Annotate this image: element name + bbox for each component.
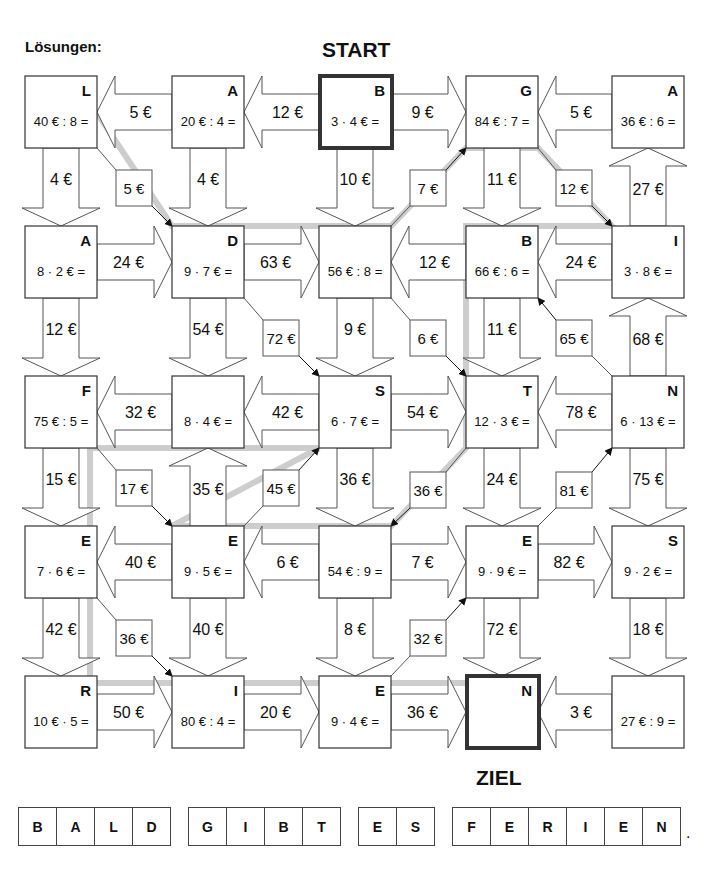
task-box-r4c3[interactable]: N bbox=[467, 676, 539, 748]
diagonal-cost-label: 5 € bbox=[124, 180, 146, 197]
diagonal-arrow-icon: 32 € bbox=[391, 598, 466, 676]
task-box-r0c1[interactable]: A20 € : 4 = bbox=[172, 76, 244, 148]
arrow-cost-label: 82 € bbox=[553, 554, 584, 571]
task-box-r3c0[interactable]: E7 · 6 € = bbox=[25, 526, 97, 598]
answer-letter-cell[interactable]: I bbox=[566, 807, 605, 846]
arrow-cost-label: 54 € bbox=[407, 404, 438, 421]
task-box-r3c2[interactable]: 54 € : 9 = bbox=[319, 526, 391, 598]
task-box-r3c3[interactable]: E9 · 9 € = bbox=[466, 526, 538, 598]
diagonal-cost-label: 17 € bbox=[119, 480, 149, 497]
solutions-heading: Lösungen: bbox=[25, 38, 102, 55]
arrow-cost-label: 7 € bbox=[411, 554, 433, 571]
answer-letter-cell[interactable]: L bbox=[94, 807, 133, 846]
box-letter: G bbox=[520, 82, 532, 99]
task-box-r3c1[interactable]: E9 · 5 € = bbox=[172, 526, 244, 598]
task-box-r4c2[interactable]: E9 · 4 € = bbox=[319, 676, 391, 748]
arrow-cost-label: 11 € bbox=[487, 321, 517, 338]
diagonal-line bbox=[446, 448, 466, 472]
box-task: 8 · 4 € = bbox=[184, 414, 232, 429]
arrow-cost-label: 6 € bbox=[276, 554, 298, 571]
task-box-r0c0[interactable]: L40 € : 8 = bbox=[25, 76, 97, 148]
task-box-r0c2[interactable]: B3 · 4 € = bbox=[320, 76, 392, 148]
box-letter: B bbox=[374, 82, 385, 99]
arrow-down-icon: 11 € bbox=[463, 148, 541, 226]
arrow-down-icon: 18 € bbox=[609, 598, 687, 676]
arrow-left-icon: 42 € bbox=[244, 376, 319, 448]
box-task: 7 · 6 € = bbox=[37, 564, 85, 579]
answer-letter-cell[interactable]: T bbox=[302, 807, 341, 846]
diagonal-line bbox=[97, 148, 116, 170]
task-box-r1c1[interactable]: D9 · 7 € = bbox=[172, 226, 244, 298]
arrow-cost-label: 32 € bbox=[125, 404, 156, 421]
answer-letter-cell[interactable]: E bbox=[490, 807, 529, 846]
arrow-down-icon: 11 € bbox=[463, 298, 541, 376]
answer-word: GIBT bbox=[188, 807, 341, 846]
arrow-cost-label: 9 € bbox=[344, 321, 366, 338]
task-box-r3c4[interactable]: S9 · 2 € = bbox=[612, 526, 684, 598]
arrow-cost-label: 24 € bbox=[113, 254, 144, 271]
diagonal-line bbox=[592, 356, 612, 376]
box-task: 9 · 2 € = bbox=[624, 564, 672, 579]
answer-letter-cell[interactable]: N bbox=[642, 807, 681, 846]
task-box-r2c4[interactable]: N6 · 13 € = bbox=[612, 376, 684, 448]
task-box-r1c4[interactable]: I3 · 8 € = bbox=[612, 226, 684, 298]
task-box-r2c3[interactable]: T12 · 3 € = bbox=[466, 376, 538, 448]
diagonal-cost-label: 12 € bbox=[559, 180, 589, 197]
arrow-cost-label: 42 € bbox=[272, 404, 303, 421]
arrow-cost-label: 63 € bbox=[260, 254, 291, 271]
task-box-r1c3[interactable]: B66 € : 6 = bbox=[466, 226, 538, 298]
arrow-down-icon: 10 € bbox=[316, 148, 394, 226]
diagonal-arrowhead bbox=[446, 598, 466, 620]
answer-letter-cell[interactable]: B bbox=[18, 807, 57, 846]
box-letter: I bbox=[234, 682, 238, 699]
arrow-down-icon: 24 € bbox=[463, 448, 541, 526]
arrow-right-icon: 63 € bbox=[244, 226, 319, 298]
answer-letter-cell[interactable]: A bbox=[56, 807, 95, 846]
task-box-r0c4[interactable]: A36 € : 6 = bbox=[612, 76, 684, 148]
box-letter: S bbox=[375, 382, 385, 399]
task-box-frame bbox=[612, 676, 684, 748]
answer-letter-cell[interactable]: D bbox=[132, 807, 171, 846]
answer-word: ES bbox=[358, 807, 435, 846]
answer-letter-cell[interactable]: E bbox=[604, 807, 643, 846]
arrow-up-icon: 35 € bbox=[169, 448, 247, 526]
answer-letter-cell[interactable]: G bbox=[188, 807, 227, 846]
answer-letter-cell[interactable]: B bbox=[264, 807, 303, 846]
arrow-right-icon: 82 € bbox=[538, 526, 612, 598]
arrow-cost-label: 36 € bbox=[339, 471, 370, 488]
box-task: 9 · 5 € = bbox=[184, 564, 232, 579]
task-box-frame bbox=[319, 226, 391, 298]
diagonal-arrow-icon: 17 € bbox=[97, 448, 172, 526]
arrow-left-icon: 5 € bbox=[97, 76, 172, 148]
goal-label: ZIEL bbox=[476, 766, 522, 790]
diagonal-arrow-icon: 5 € bbox=[97, 148, 172, 226]
task-box-r4c1[interactable]: I80 € : 4 = bbox=[172, 676, 244, 748]
task-box-r4c4[interactable]: 27 € : 9 = bbox=[612, 676, 684, 748]
box-letter: E bbox=[228, 532, 238, 549]
arrow-cost-label: 5 € bbox=[129, 104, 151, 121]
task-box-r2c1[interactable]: 8 · 4 € = bbox=[172, 376, 244, 448]
arrow-left-icon: 78 € bbox=[538, 376, 612, 448]
box-task: 6 · 7 € = bbox=[331, 414, 379, 429]
arrow-cost-label: 24 € bbox=[565, 254, 596, 271]
answer-letter-cell[interactable]: R bbox=[528, 807, 567, 846]
task-box-r1c0[interactable]: A8 · 2 € = bbox=[25, 226, 97, 298]
task-box-r2c0[interactable]: F75 € : 5 = bbox=[25, 376, 97, 448]
box-task: 8 · 2 € = bbox=[37, 264, 85, 279]
task-box-r1c2[interactable]: 56 € : 8 = bbox=[319, 226, 391, 298]
box-task: 9 · 9 € = bbox=[478, 564, 526, 579]
answer-letter-cell[interactable]: I bbox=[226, 807, 265, 846]
box-task: 3 · 4 € = bbox=[331, 114, 379, 129]
box-task: 56 € : 8 = bbox=[328, 264, 383, 279]
task-box-r0c3[interactable]: G84 € : 7 = bbox=[466, 76, 538, 148]
arrow-left-icon: 40 € bbox=[97, 526, 172, 598]
task-box-r4c0[interactable]: R10 € · 5 = bbox=[25, 676, 97, 748]
answer-letter-cell[interactable]: S bbox=[396, 807, 435, 846]
task-box-r2c2[interactable]: S6 · 7 € = bbox=[319, 376, 391, 448]
arrow-cost-label: 78 € bbox=[565, 404, 596, 421]
answer-letter-cell[interactable]: E bbox=[358, 807, 397, 846]
box-letter: E bbox=[81, 532, 91, 549]
answer-letter-cell[interactable]: F bbox=[452, 807, 491, 846]
box-letter: E bbox=[522, 532, 532, 549]
box-letter: N bbox=[667, 382, 678, 399]
